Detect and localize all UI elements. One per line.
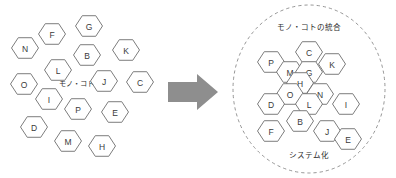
hex-label: F (268, 127, 273, 137)
hex-node-d: D (21, 117, 48, 138)
hex-label: C (306, 48, 312, 58)
hex-label: K (329, 60, 335, 70)
hex-node-e: E (102, 102, 129, 123)
hex-label: C (137, 78, 143, 88)
hex-label: P (268, 58, 274, 68)
hex-label: I (48, 95, 50, 105)
right-cluster: モノ・コトの統合CPKMGHONDLIBFJEシステム化 (233, 5, 385, 173)
hex-label: G (86, 22, 93, 32)
hex-label: L (56, 66, 61, 76)
hex-label: K (123, 46, 129, 56)
figure-canvas: NFGBKLOJCIPEDMHモノ・コト モノ・コトの統合CPKMGHONDLI… (0, 0, 396, 178)
hex-node-k: K (319, 54, 346, 75)
hex-node-n: N (12, 38, 39, 59)
hex-label: D (31, 123, 37, 133)
hex-label: M (64, 137, 71, 147)
diagram-svg: NFGBKLOJCIPEDMHモノ・コト モノ・コトの統合CPKMGHONDLI… (0, 0, 396, 178)
hex-node-i: I (36, 89, 63, 110)
hex-node-f: F (258, 121, 285, 142)
hex-label: F (49, 30, 54, 40)
hex-label: B (297, 117, 303, 127)
hex-node-p: P (65, 99, 92, 120)
hex-node-f: F (39, 24, 66, 45)
hex-label: L (307, 100, 312, 110)
hex-node-j: J (91, 71, 118, 92)
hex-node-l: L (45, 60, 72, 81)
top-caption: モノ・コトの統合 (277, 22, 341, 32)
hex-node-i: I (333, 94, 360, 115)
hex-label: E (345, 135, 351, 145)
hex-label: P (75, 105, 81, 115)
bottom-caption: システム化 (289, 150, 329, 160)
hex-node-g: G (76, 16, 103, 37)
hex-node-o: O (11, 74, 38, 95)
hex-label: H (99, 142, 105, 152)
hex-label: D (268, 100, 274, 110)
hex-label: O (287, 90, 294, 100)
hex-node-b: B (74, 45, 101, 66)
hex-label: J (325, 127, 329, 137)
hex-label: I (345, 100, 347, 110)
hex-node-h: H (89, 136, 116, 157)
transform-arrow (168, 74, 218, 110)
hex-label: J (102, 77, 106, 87)
hex-node-k: K (113, 40, 140, 61)
hex-label: O (21, 80, 28, 90)
arrow-icon (168, 74, 218, 110)
hex-node-c: C (296, 42, 323, 63)
hex-node-c: C (127, 72, 154, 93)
hex-label: E (112, 108, 118, 118)
hex-label: N (22, 44, 28, 54)
hex-label: B (84, 51, 90, 61)
hex-node-m: M (55, 131, 82, 152)
left-cluster: NFGBKLOJCIPEDMHモノ・コト (11, 16, 154, 157)
center-caption: モノ・コト (59, 79, 94, 88)
